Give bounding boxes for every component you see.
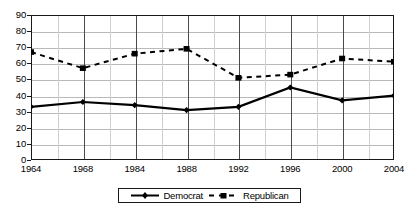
data-point-marker bbox=[235, 75, 241, 81]
data-point-marker bbox=[80, 65, 86, 71]
legend-entry-democrat: Democrat bbox=[130, 190, 203, 201]
series-line-republican bbox=[31, 49, 394, 78]
y-axis-tick-label: 70 bbox=[0, 42, 26, 52]
y-axis-tick-mark bbox=[27, 112, 31, 113]
line-chart: 0102030405060708090 19641968198419881992… bbox=[0, 0, 419, 212]
x-axis-tick-label: 1988 bbox=[164, 164, 210, 174]
x-axis-tick-label: 2000 bbox=[319, 164, 365, 174]
y-axis-tick-mark bbox=[27, 79, 31, 80]
data-point-marker bbox=[339, 56, 345, 62]
data-point-marker bbox=[183, 107, 189, 113]
y-axis-tick-mark bbox=[27, 47, 31, 48]
legend-label-democrat: Democrat bbox=[163, 191, 203, 201]
data-point-marker bbox=[132, 102, 138, 108]
y-axis-tick-mark bbox=[27, 63, 31, 64]
y-axis-tick-label: 60 bbox=[0, 58, 26, 68]
data-point-marker bbox=[391, 92, 394, 98]
y-axis-tick-mark bbox=[27, 15, 31, 16]
data-point-marker bbox=[184, 46, 190, 52]
y-axis-tick-mark bbox=[27, 144, 31, 145]
legend-label-republican: Republican bbox=[243, 191, 289, 201]
data-point-marker bbox=[80, 99, 86, 105]
y-axis-tick-mark bbox=[27, 96, 31, 97]
series-layer bbox=[31, 15, 394, 160]
legend-entry-republican: Republican bbox=[208, 190, 289, 201]
republican-legend-swatch-icon bbox=[208, 190, 240, 201]
y-axis-tick-label: 80 bbox=[0, 26, 26, 36]
data-point-marker bbox=[391, 59, 394, 65]
x-axis-tick-label: 1984 bbox=[112, 164, 158, 174]
y-axis-tick-mark bbox=[27, 31, 31, 32]
data-point-marker bbox=[31, 104, 34, 110]
y-axis-tick-label: 50 bbox=[0, 74, 26, 84]
x-axis-tick-label: 2004 bbox=[371, 164, 417, 174]
y-axis-tick-label: 90 bbox=[0, 10, 26, 20]
x-axis-tick-label: 1996 bbox=[267, 164, 313, 174]
x-axis-tick-label: 1968 bbox=[60, 164, 106, 174]
data-point-marker bbox=[287, 84, 293, 90]
y-axis-tick-label: 10 bbox=[0, 139, 26, 149]
y-axis-tick-mark bbox=[27, 160, 31, 161]
x-axis-tick-label: 1964 bbox=[8, 164, 54, 174]
y-axis-tick-label: 40 bbox=[0, 91, 26, 101]
data-point-marker bbox=[31, 49, 34, 55]
data-point-marker bbox=[287, 72, 293, 78]
chart-legend: Democrat Republican bbox=[118, 188, 301, 203]
data-point-marker bbox=[132, 51, 138, 57]
x-axis-tick-label: 1992 bbox=[215, 164, 261, 174]
democrat-legend-swatch-icon bbox=[130, 190, 160, 201]
y-axis-tick-label: 30 bbox=[0, 107, 26, 117]
data-point-marker bbox=[235, 104, 241, 110]
y-axis-tick-mark bbox=[27, 128, 31, 129]
data-point-marker bbox=[339, 97, 345, 103]
series-line-democrat bbox=[31, 88, 394, 111]
y-axis-tick-label: 20 bbox=[0, 123, 26, 133]
